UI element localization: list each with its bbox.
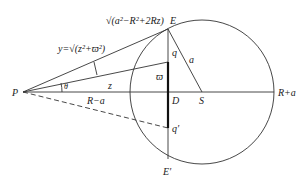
label-P: P <box>11 87 18 98</box>
label-a: a <box>189 54 194 65</box>
label-y-formula: y=√(z²+ϖ²) <box>57 43 106 55</box>
label-q-prime: q′ <box>172 123 180 134</box>
label-q: q <box>172 47 177 58</box>
label-varpi: ϖ <box>156 71 164 82</box>
label-z: z <box>107 80 112 91</box>
label-E-prime: E′ <box>162 166 172 177</box>
radius-ES <box>168 29 202 92</box>
line-PE <box>23 29 168 92</box>
geometry-diagram: P E E′ D S q q′ a z θ ϖ R−a R+a y=√(z²+ϖ… <box>0 0 306 181</box>
label-R-plus-a: R+a <box>277 87 296 98</box>
label-R-minus-a: R−a <box>86 95 105 106</box>
label-D: D <box>171 95 180 106</box>
label-S: S <box>199 95 204 106</box>
y-leader <box>94 62 97 75</box>
label-E-formula: √(a²−R²+2Rz) <box>106 15 164 27</box>
label-E: E <box>169 15 176 26</box>
label-theta: θ <box>64 82 68 91</box>
